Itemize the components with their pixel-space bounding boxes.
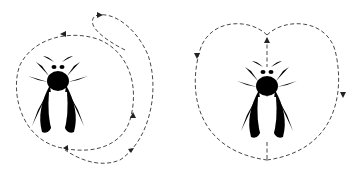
bee-illustration xyxy=(237,61,297,141)
round-dance-inner-circle xyxy=(16,35,133,150)
dance-illustration xyxy=(0,0,359,179)
bee-illustration xyxy=(28,56,88,136)
bee-dance-figure xyxy=(0,0,359,179)
waggle-right-lobe xyxy=(267,24,339,160)
round-dance-panel xyxy=(16,12,153,163)
arrow-icon xyxy=(97,12,103,18)
arrow-icon xyxy=(130,112,136,118)
waggle-dance-panel xyxy=(194,24,346,160)
arrow-icon xyxy=(340,92,346,98)
round-dance-reversal-loop xyxy=(65,15,153,164)
waggle-left-lobe xyxy=(195,24,267,160)
arrow-icon xyxy=(264,37,270,43)
arrow-icon xyxy=(194,53,200,59)
arrow-icon xyxy=(128,148,134,153)
